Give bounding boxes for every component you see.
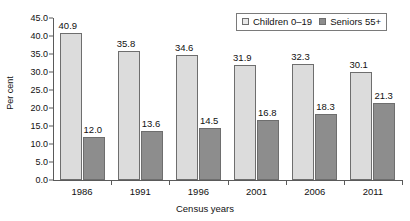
bar-children-1986	[60, 33, 82, 180]
legend-swatch-seniors-icon	[319, 18, 326, 25]
x-axis-tick-mark	[111, 180, 112, 185]
bar-seniors-1991	[141, 131, 163, 180]
y-axis-tick-label: 25.0	[2, 86, 53, 95]
bar-value-label: 34.6	[175, 42, 194, 53]
bar-seniors-2011	[373, 103, 395, 180]
x-axis-category-label: 1991	[130, 186, 151, 197]
legend-item-seniors: Seniors 55+	[319, 16, 381, 27]
bar-value-label: 13.6	[142, 118, 161, 129]
y-axis-tick-label: 10.0	[2, 140, 53, 149]
x-axis-tick-mark	[402, 180, 403, 185]
y-axis-tick-label: 35.0	[2, 50, 53, 59]
y-axis-tick-mark	[49, 36, 53, 37]
x-axis-label: Census years	[0, 203, 410, 214]
bar-value-label: 21.3	[374, 90, 393, 101]
y-axis-tick-mark	[49, 72, 53, 73]
bar-value-label: 31.9	[233, 52, 252, 63]
y-axis-tick-mark	[49, 180, 53, 181]
y-axis-tick-label: 20.0	[2, 104, 53, 113]
bar-seniors-1986	[83, 137, 105, 180]
bar-value-label: 40.9	[59, 20, 78, 31]
y-axis-tick-label: 40.0	[2, 32, 53, 41]
x-axis-tick-mark	[286, 180, 287, 185]
y-axis-tick-mark	[49, 144, 53, 145]
y-axis-tick-mark	[49, 162, 53, 163]
bar-children-2006	[292, 64, 314, 180]
y-axis-tick-mark	[49, 90, 53, 91]
x-axis-category-label: 1986	[72, 186, 93, 197]
bar-seniors-2006	[315, 114, 337, 180]
y-axis-tick-label: 15.0	[2, 122, 53, 131]
y-axis-tick-mark	[49, 108, 53, 109]
legend-label-seniors: Seniors 55+	[330, 16, 381, 27]
y-axis-tick-mark	[49, 54, 53, 55]
bar-children-2011	[350, 72, 372, 180]
bar-value-label: 12.0	[84, 124, 103, 135]
x-axis-tick-mark	[228, 180, 229, 185]
legend-item-children: Children 0–19	[242, 16, 312, 27]
bar-children-2001	[234, 65, 256, 180]
x-axis-tick-mark	[344, 180, 345, 185]
y-axis-tick-mark	[49, 126, 53, 127]
legend-swatch-children-icon	[242, 18, 249, 25]
bar-value-label: 30.1	[349, 59, 368, 70]
bar-value-label: 14.5	[200, 115, 219, 126]
x-axis-category-label: 1996	[188, 186, 209, 197]
bar-value-label: 16.8	[258, 107, 277, 118]
y-axis-tick-label: 30.0	[2, 68, 53, 77]
x-axis-tick-mark	[169, 180, 170, 185]
bar-chart: Per cent Census years 0.05.010.015.020.0…	[0, 0, 410, 221]
x-axis-category-label: 2001	[246, 186, 267, 197]
bar-value-label: 32.3	[291, 51, 310, 62]
y-axis-tick-mark	[49, 18, 53, 19]
bar-value-label: 18.3	[316, 101, 335, 112]
y-axis-tick-label: 45.0	[2, 14, 53, 23]
y-axis-tick-label: 5.0	[2, 158, 53, 167]
bar-children-1996	[176, 55, 198, 180]
bar-children-1991	[118, 51, 140, 180]
legend-label-children: Children 0–19	[253, 16, 312, 27]
bar-value-label: 35.8	[117, 38, 136, 49]
plot-area: 0.05.010.015.020.025.030.035.040.045.040…	[53, 18, 402, 180]
y-axis-tick-label: 0.0	[2, 176, 53, 185]
chart-legend: Children 0–19 Seniors 55+	[236, 13, 387, 31]
x-axis-category-label: 2006	[304, 186, 325, 197]
x-axis-category-label: 2011	[363, 186, 383, 197]
bar-seniors-1996	[199, 128, 221, 180]
bar-seniors-2001	[257, 120, 279, 180]
